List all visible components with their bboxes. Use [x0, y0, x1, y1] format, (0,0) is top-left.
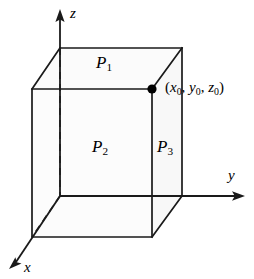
x-axis-label: x	[24, 260, 31, 275]
marked-point-label: (x0, y0, z0)	[165, 80, 224, 97]
y-axis-label: y	[228, 168, 235, 183]
plane-label-p1-sub: 1	[106, 61, 112, 73]
z-axis-label: z	[70, 6, 76, 21]
point-x-base: x	[170, 79, 177, 95]
plane-label-p1-base: P	[96, 53, 106, 72]
front-face-fill	[32, 89, 152, 237]
point-sep-1: ,	[182, 79, 190, 95]
plane-label-p2: P2	[92, 138, 108, 157]
plane-label-p3-sub: 3	[167, 145, 173, 157]
point-close-paren: )	[219, 79, 224, 95]
x-axis-arrowhead	[9, 257, 22, 269]
point-y-base: y	[189, 79, 196, 95]
plane-label-p2-sub: 2	[102, 145, 108, 157]
plane-label-p3-base: P	[157, 137, 167, 156]
box-diagram-figure: z y x P1 P2 P3 (x0, y0, z0)	[0, 0, 254, 279]
diagram-canvas	[0, 0, 254, 279]
plane-label-p3: P3	[157, 138, 173, 157]
plane-label-p2-base: P	[92, 137, 102, 156]
plane-label-p1: P1	[96, 54, 112, 73]
marked-point-dot	[147, 84, 156, 93]
